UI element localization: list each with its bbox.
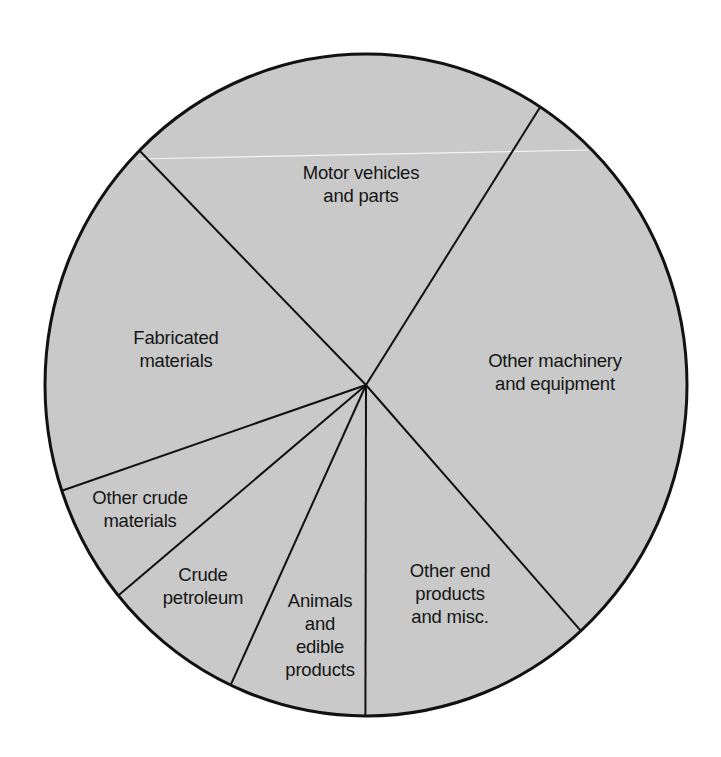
slice-divider bbox=[365, 385, 366, 716]
label-animals-edible: Animals and edible products bbox=[285, 589, 354, 681]
label-motor-vehicles: Motor vehicles and parts bbox=[303, 161, 419, 207]
label-other-machinery: Other machinery and equipment bbox=[488, 349, 622, 395]
label-fabricated-materials: Fabricated materials bbox=[133, 326, 218, 372]
label-other-crude-materials: Other crude materials bbox=[92, 486, 188, 532]
label-crude-petroleum: Crude petroleum bbox=[163, 563, 243, 609]
label-other-end-products: Other end products and misc. bbox=[410, 559, 490, 628]
